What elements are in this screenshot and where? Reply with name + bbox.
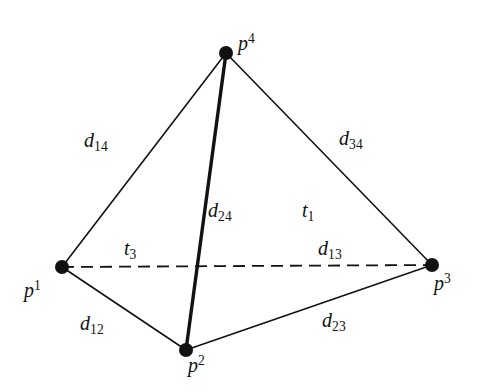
vertex-label-p2: p2 <box>188 354 205 375</box>
vertex-label-p3-base: p <box>434 272 444 294</box>
vertex-dot-p3 <box>425 258 439 272</box>
vertex-label-p1: p1 <box>24 279 41 300</box>
vertex-label-p2-base: p <box>188 354 198 376</box>
edge-label-d23: d23 <box>322 310 346 333</box>
edge-label-d24: d24 <box>208 200 232 223</box>
edge-label-d14-sub: 14 <box>94 139 108 154</box>
vertex-label-p4: p4 <box>238 32 255 53</box>
face-label-t3-sub: 3 <box>130 247 137 262</box>
edge-label-d23-sub: 23 <box>332 319 346 334</box>
edge-d12 <box>62 267 186 350</box>
face-label-t1: t1 <box>302 200 315 223</box>
vertex-dot-p4 <box>219 46 233 60</box>
edge-label-d23-base: d <box>322 309 332 331</box>
vertex-label-p1-base: p <box>24 279 34 301</box>
tetrahedron-figure: d14 d34 d24 d13 d12 d23 t1 t3 p1 p2 p3 p… <box>0 0 484 392</box>
vertex-dot-p1 <box>55 260 69 274</box>
vertex-label-p1-sup: 1 <box>34 278 41 293</box>
edge-label-d13: d13 <box>318 238 342 261</box>
face-label-t1-sub: 1 <box>308 209 315 224</box>
edge-label-d12: d12 <box>80 313 104 336</box>
edge-label-d14-base: d <box>84 129 94 151</box>
edge-d23 <box>186 265 432 350</box>
edge-label-d24-base: d <box>208 199 218 221</box>
edges-group <box>62 53 432 350</box>
vertex-label-p2-sup: 2 <box>198 353 205 368</box>
vertex-label-p4-base: p <box>238 32 248 54</box>
edge-d13-hidden-dashed <box>62 265 432 267</box>
edge-d34 <box>226 53 432 265</box>
edge-label-d34-sub: 34 <box>349 137 363 152</box>
edge-label-d34-base: d <box>339 127 349 149</box>
edge-label-d34: d34 <box>339 128 363 151</box>
vertex-label-p3: p3 <box>434 272 451 293</box>
edge-label-d13-sub: 13 <box>328 247 342 262</box>
edge-label-d12-sub: 12 <box>90 322 104 337</box>
face-label-t3: t3 <box>124 238 137 261</box>
vertex-label-p3-sup: 3 <box>444 271 451 286</box>
edge-label-d14: d14 <box>84 130 108 153</box>
tetrahedron-graphic <box>0 0 484 392</box>
vertex-label-p4-sup: 4 <box>248 31 255 46</box>
edge-label-d13-base: d <box>318 237 328 259</box>
edge-label-d12-base: d <box>80 312 90 334</box>
edge-label-d24-sub: 24 <box>218 209 232 224</box>
